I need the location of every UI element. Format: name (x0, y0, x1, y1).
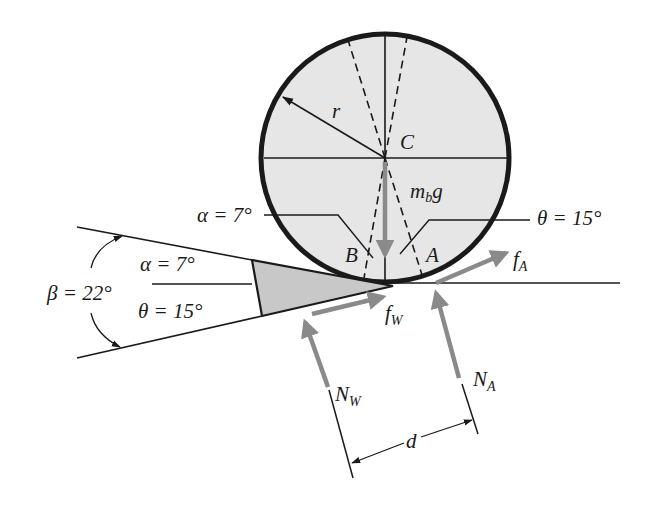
friction-W-label: fW (385, 301, 404, 328)
beta-arc-upper (91, 236, 122, 268)
distance-arrow-left (352, 443, 404, 463)
normal-W-arrow (305, 322, 328, 387)
point-A-label: A (424, 243, 439, 267)
distance-dimension: d (352, 420, 472, 463)
center-label: C (400, 130, 415, 154)
distance-arrow-right (421, 420, 472, 437)
normal-A-line-of-action (462, 384, 478, 434)
radius-label: r (332, 99, 341, 123)
normal-A-arrow (436, 293, 459, 378)
beta-label: β = 22° (46, 281, 112, 305)
theta-upper-label: θ = 15° (537, 206, 602, 230)
ball-wedge-free-body-diagram: r C mbg α = 7° θ = 15° B A β = 22° α = 7… (0, 0, 653, 510)
point-B-label: B (345, 243, 358, 267)
alpha-wedge-label: α = 7° (140, 252, 195, 276)
theta-wedge-label: θ = 15° (138, 299, 203, 323)
normal-A-label: NA (472, 367, 496, 394)
beta-arc-lower (91, 313, 120, 347)
friction-A-label: fA (513, 247, 528, 274)
alpha-upper-label: α = 7° (197, 203, 252, 227)
normal-W-label: NW (334, 382, 362, 409)
distance-label: d (406, 429, 417, 453)
